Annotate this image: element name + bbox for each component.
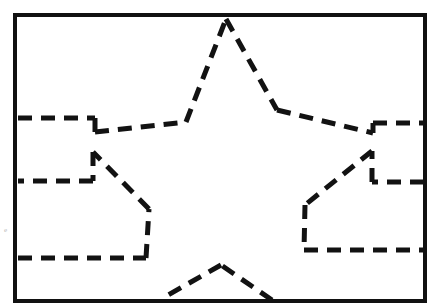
bottom-left-point-edge: [161, 265, 221, 299]
left-lower-arm-vertical: [146, 209, 149, 258]
figure-canvas: e: [0, 0, 439, 307]
five-point-star-dashed-outline: [18, 19, 424, 300]
right-upper-inner-slope: [277, 110, 373, 133]
left-upper-inner-slope: [95, 122, 186, 132]
faint-left-margin-mark: e: [4, 226, 7, 234]
left-lower-inner-slope: [93, 152, 149, 209]
bottom-right-point-edge: [221, 265, 272, 300]
right-lower-inner-slope: [305, 151, 372, 205]
top-point-left-edge: [186, 19, 226, 122]
figure-drawing: e: [0, 0, 439, 307]
right-lower-arm-vertical: [304, 205, 305, 250]
top-point-right-edge: [226, 19, 277, 110]
